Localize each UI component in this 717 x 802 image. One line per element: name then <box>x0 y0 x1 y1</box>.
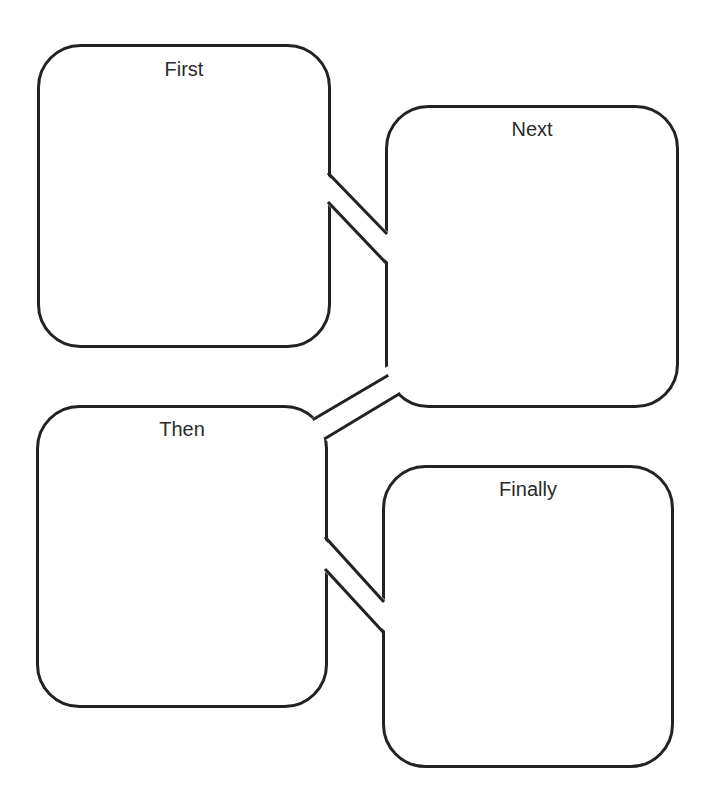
box-next-label: Next <box>386 117 678 141</box>
box-then-label: Then <box>37 417 327 441</box>
box-next[interactable] <box>388 148 676 404</box>
box-finally[interactable] <box>385 508 671 764</box>
connector-first-next <box>326 174 389 263</box>
box-then[interactable] <box>39 448 325 704</box>
box-first-label: First <box>38 57 330 81</box>
box-first[interactable] <box>40 88 328 344</box>
box-finally-label: Finally <box>383 477 673 501</box>
connector-then-finally <box>323 538 386 632</box>
